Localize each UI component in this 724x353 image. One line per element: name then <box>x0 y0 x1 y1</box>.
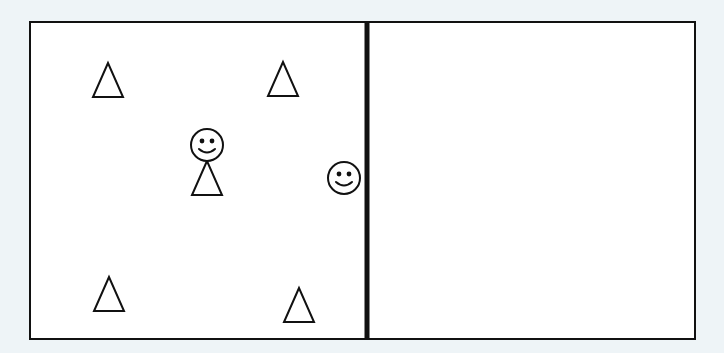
smiley-face-icon <box>191 129 223 161</box>
smiley-by-wall-icon <box>328 162 360 194</box>
room-diagram <box>0 0 724 353</box>
right-room <box>367 22 695 339</box>
